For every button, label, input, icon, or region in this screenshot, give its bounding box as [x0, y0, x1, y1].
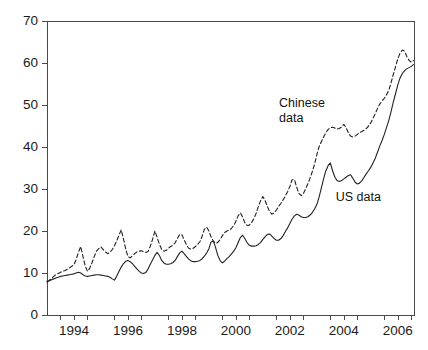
annotation-line-1: US data: [336, 190, 381, 205]
y-tick-label: 20: [0, 224, 38, 238]
chart-plot-area: [0, 0, 428, 350]
y-tick-label: 10: [0, 266, 38, 280]
axis-frame: [48, 22, 415, 316]
x-tick-label: 2004: [314, 324, 374, 338]
series-line-us: [47, 65, 413, 282]
y-tick-label: 60: [0, 56, 38, 70]
y-tick-label: 50: [0, 98, 38, 112]
x-tick-label: 2000: [206, 324, 266, 338]
x-tick-label: 1996: [98, 324, 158, 338]
y-tick-label: 0: [0, 308, 38, 322]
x-tick-label: 1998: [152, 324, 212, 338]
series-lines: [47, 50, 413, 282]
annotation-chinese-data: Chinesedata: [279, 96, 325, 126]
series-line-chinese: [47, 50, 413, 281]
x-tick-label: 2006: [368, 324, 428, 338]
chart-container: 010203040506070 199419961998200020022004…: [0, 0, 428, 350]
y-tick-label: 70: [0, 14, 38, 28]
annotation-line-1: Chinese: [279, 96, 325, 111]
y-tick-label: 30: [0, 182, 38, 196]
y-tick-label: 40: [0, 140, 38, 154]
annotation-line-2: data: [279, 111, 325, 126]
x-tick-label: 2002: [260, 324, 320, 338]
annotation-us-data: US data: [336, 190, 381, 205]
x-tick-label: 1994: [44, 324, 104, 338]
